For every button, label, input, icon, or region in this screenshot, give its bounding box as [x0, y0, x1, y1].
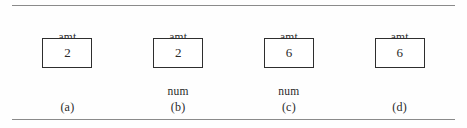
box-value-text: 6	[396, 46, 403, 60]
figure-panel-c: amt 6 num (c)	[234, 12, 345, 114]
box-value-text: 2	[175, 46, 182, 60]
variable-label-num: num	[123, 85, 234, 97]
panel-caption: (d)	[344, 101, 455, 114]
panel-caption: (a)	[12, 101, 123, 114]
value-box: 6	[375, 38, 425, 68]
figure-panel-a: amt 2 (a)	[12, 12, 123, 114]
panel-caption: (b)	[123, 101, 234, 114]
value-box: 2	[153, 38, 203, 68]
bottom-horizontal-rule	[12, 119, 455, 120]
box-value-text: 6	[286, 46, 293, 60]
figure-container: amt 2 (a) amt 2 num (b) amt	[0, 0, 467, 128]
panel-row: amt 2 (a) amt 2 num (b) amt	[12, 12, 455, 114]
value-box: 6	[264, 38, 314, 68]
top-horizontal-rule	[12, 5, 455, 6]
value-box: 2	[42, 38, 92, 68]
figure-panel-d: amt 6 (d)	[344, 12, 455, 114]
variable-label-num: num	[234, 85, 345, 97]
figure-panel-b: amt 2 num (b)	[123, 12, 234, 114]
panel-caption: (c)	[234, 101, 345, 114]
box-value-text: 2	[64, 46, 71, 60]
